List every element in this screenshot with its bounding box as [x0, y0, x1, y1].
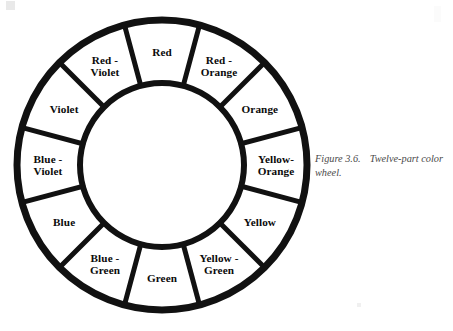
scan-artifact-top-right — [434, 6, 441, 22]
color-wheel-svg — [14, 15, 314, 315]
wheel-inner-circle — [80, 83, 244, 247]
figure-color-wheel: RedRed -OrangeOrangeYellow-OrangeYellowY… — [0, 0, 453, 331]
figure-caption: Figure 3.6.Twelve-part color wheel. — [315, 152, 450, 179]
scan-artifact-top-left — [6, 1, 15, 10]
color-wheel-diagram: RedRed -OrangeOrangeYellow-OrangeYellowY… — [14, 15, 314, 315]
scan-artifact-bottom-right — [357, 303, 361, 307]
figure-caption-number: Figure 3.6. — [315, 153, 361, 164]
